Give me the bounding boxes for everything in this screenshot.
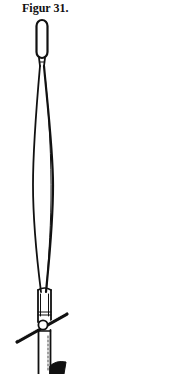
pivot-knob (38, 320, 47, 329)
spindle-body (33, 66, 53, 292)
instrument-illustration (0, 0, 188, 374)
lower-shaft (39, 330, 67, 374)
collar (38, 288, 51, 322)
top-loop (37, 20, 48, 66)
